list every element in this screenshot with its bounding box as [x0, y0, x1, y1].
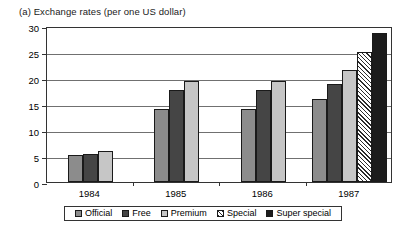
legend-label: Super special [276, 209, 331, 218]
bar-official-1987 [312, 99, 327, 182]
chart-legend: OfficialFreePremiumSpecialSuper special [64, 206, 342, 221]
plot-area: 051015202530 [46, 27, 392, 183]
x-axis-tick [306, 182, 307, 186]
legend-item-free[interactable]: Free [122, 209, 151, 218]
bar-group-1985 [134, 28, 221, 182]
bar-official-1984 [68, 155, 83, 182]
chart-title: (a) Exchange rates (per one US dollar) [19, 6, 186, 17]
bar-group-1986 [220, 28, 307, 182]
legend-item-official[interactable]: Official [75, 209, 112, 218]
x-axis-label-1985: 1985 [165, 188, 186, 199]
legend-swatch-premium [161, 210, 168, 217]
bar-premium-1986 [271, 81, 286, 182]
bar-premium-1985 [184, 81, 199, 182]
chart-figure: (a) Exchange rates (per one US dollar) 0… [0, 0, 414, 243]
bar-premium-1987 [342, 70, 357, 182]
y-axis-label: 25 [17, 49, 39, 60]
legend-label: Official [85, 209, 112, 218]
y-axis-label: 0 [17, 179, 39, 190]
bar-official-1986 [241, 109, 256, 182]
bars-layer [47, 28, 391, 182]
x-axis-label-1986: 1986 [252, 188, 273, 199]
bar-premium-1984 [98, 151, 113, 182]
y-axis-label: 30 [17, 23, 39, 34]
legend-swatch-free [122, 210, 129, 217]
bar-group-1984 [47, 28, 134, 182]
legend-swatch-super-special [266, 210, 273, 217]
legend-swatch-official [75, 210, 82, 217]
legend-label: Premium [171, 209, 207, 218]
y-axis-label: 15 [17, 101, 39, 112]
y-axis-label: 10 [17, 127, 39, 138]
legend-item-super-special[interactable]: Super special [266, 209, 331, 218]
legend-item-special[interactable]: Special [217, 209, 257, 218]
legend-label: Special [227, 209, 257, 218]
y-axis-label: 5 [17, 153, 39, 164]
x-axis: 1984198519861987 [46, 186, 392, 202]
bar-free-1985 [169, 90, 184, 182]
bar-free-1986 [256, 90, 271, 182]
legend-label: Free [132, 209, 151, 218]
x-axis-tick [133, 182, 134, 186]
x-axis-tick [219, 182, 220, 186]
bar-super-special-1987 [372, 33, 387, 182]
bar-free-1987 [327, 84, 342, 182]
bar-official-1985 [154, 109, 169, 182]
bar-group-1987 [307, 28, 394, 182]
bar-free-1984 [83, 154, 98, 182]
x-axis-label-1984: 1984 [79, 188, 100, 199]
y-axis-label: 20 [17, 75, 39, 86]
bar-special-1987 [357, 52, 372, 182]
y-axis-tick [42, 184, 47, 185]
legend-swatch-special [217, 210, 224, 217]
legend-item-premium[interactable]: Premium [161, 209, 207, 218]
x-axis-label-1987: 1987 [338, 188, 359, 199]
